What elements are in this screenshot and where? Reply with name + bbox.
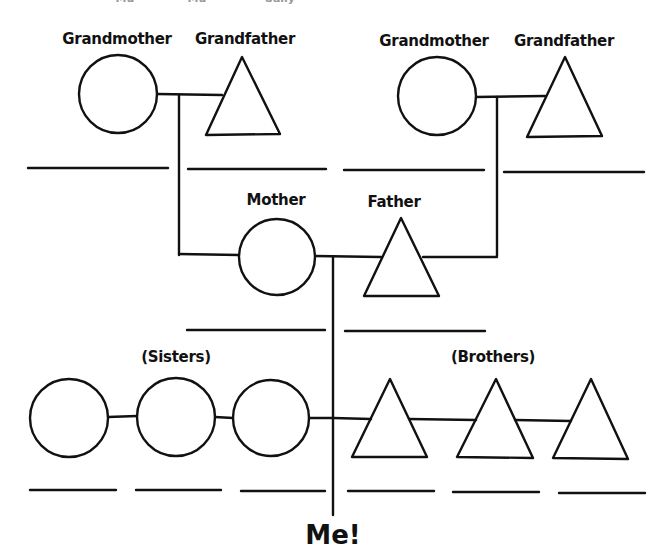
top-cut-text: Mu xyxy=(188,0,207,5)
brother-link-line xyxy=(515,420,571,421)
mother-connector-line xyxy=(179,254,239,255)
brother-2-triangle xyxy=(457,379,533,458)
sister-3-circle xyxy=(233,380,309,456)
top-cut-text: Mu xyxy=(116,0,135,5)
father-label: Father xyxy=(367,193,420,211)
sister-link-line xyxy=(108,416,137,417)
sister-link-line xyxy=(215,417,233,418)
mother-label: Mother xyxy=(247,191,306,209)
grandmother-right-label: Grandmother xyxy=(379,32,488,50)
grandfather-left-label: Grandfather xyxy=(195,30,295,48)
brother-link-line xyxy=(409,419,476,420)
sisters-label: (Sisters) xyxy=(141,348,211,366)
grandmother-right-circle xyxy=(398,57,476,135)
grandmother-left-label: Grandmother xyxy=(62,30,171,48)
mother-circle xyxy=(239,219,315,295)
brother-link-line xyxy=(333,418,371,419)
sister-2-circle xyxy=(137,378,215,456)
grandmother-left-circle xyxy=(79,55,157,133)
self-label: Me! xyxy=(305,520,360,550)
sister-1-circle xyxy=(30,379,108,457)
family-tree-diagram xyxy=(0,0,662,552)
parents-marriage-line xyxy=(315,256,381,257)
brothers-label: (Brothers) xyxy=(451,348,535,366)
top-cut-text: Sally xyxy=(265,0,295,5)
grandfather-right-label: Grandfather xyxy=(514,32,614,50)
brother-3-triangle xyxy=(553,379,628,459)
grandparents-left-marriage-line xyxy=(157,94,222,95)
grandparents-right-marriage-line xyxy=(476,96,545,97)
